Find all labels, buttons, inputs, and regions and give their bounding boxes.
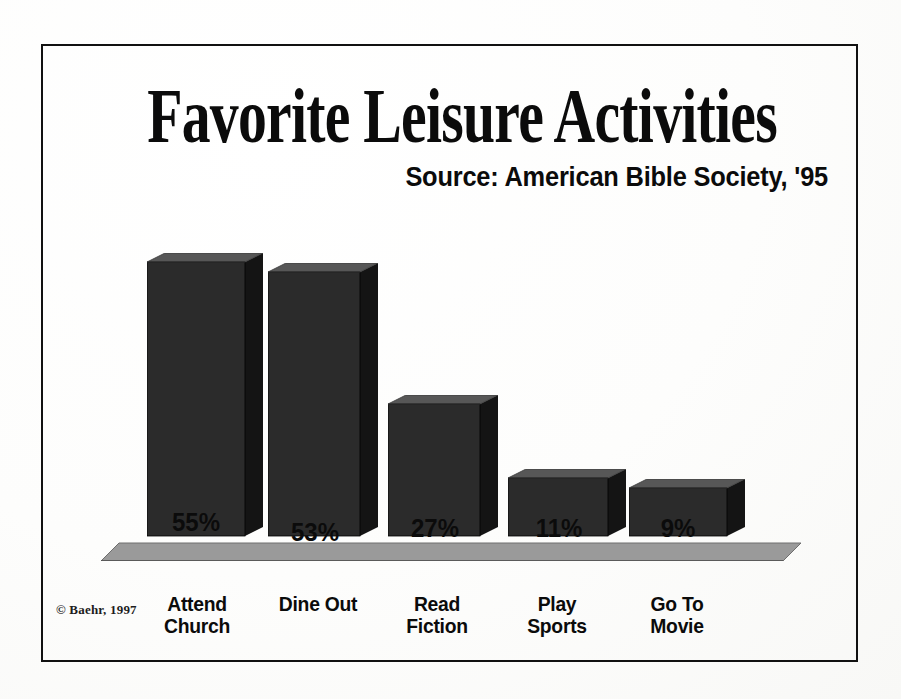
- bar-value-dine-out: 53%: [266, 519, 364, 545]
- category-label-line-2: Fiction: [385, 615, 488, 637]
- category-label-line-2: Church: [145, 615, 248, 637]
- bar-shape-attend-church[interactable]: [147, 253, 263, 545]
- category-label-line-1: Read: [385, 593, 488, 615]
- category-label-attend-church: Attend Church: [145, 593, 248, 637]
- bar-value-attend-church: 55%: [147, 509, 245, 535]
- bar-value-go-to-movie: 9%: [631, 515, 725, 541]
- category-label-dine-out: Dine Out: [264, 593, 373, 615]
- category-label-read-fiction: Read Fiction: [385, 593, 488, 637]
- category-label-play-sports: Play Sports: [507, 593, 606, 637]
- category-label-go-to-movie: Go To Movie: [627, 593, 726, 637]
- category-label-line-1: Dine Out: [264, 593, 373, 615]
- category-label-line-1: Attend: [145, 593, 248, 615]
- copyright-notice: © Baehr, 1997: [56, 602, 137, 617]
- category-label-line-2: Sports: [507, 615, 606, 637]
- category-label-line-1: Go To: [627, 593, 726, 615]
- slide-page: Favorite Leisure Activities Source: Amer…: [0, 0, 901, 699]
- bar-value-play-sports: 11%: [510, 515, 608, 541]
- chart-plot-area: 55% Attend Church 53% Dine Out: [41, 44, 858, 662]
- category-label-line-2: Movie: [627, 615, 726, 637]
- bar-shape-dine-out[interactable]: [268, 263, 378, 545]
- category-label-line-1: Play: [507, 593, 606, 615]
- bar-value-read-fiction: 27%: [386, 515, 484, 541]
